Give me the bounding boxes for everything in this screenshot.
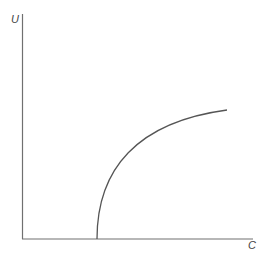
chart-canvas bbox=[0, 0, 266, 257]
x-axis-label: C bbox=[248, 240, 256, 251]
utility-curve bbox=[97, 110, 227, 239]
y-axis-label: U bbox=[11, 14, 19, 25]
